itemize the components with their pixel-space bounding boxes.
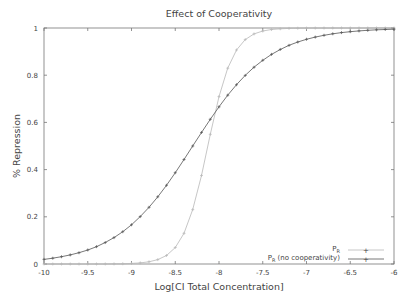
series-line (44, 28, 394, 264)
x-tick-label: -6.5 (343, 269, 357, 277)
x-axis-ticks: -10-9.5-9-8.5-8-7.5-7-6.5-6 (38, 28, 398, 277)
x-tick-label: -6 (391, 269, 399, 277)
y-axis-label: % Repression (11, 114, 22, 178)
x-tick-label: -9.5 (81, 269, 95, 277)
y-tick-label: 0.6 (27, 119, 39, 127)
y-axis-ticks: 00.20.40.60.81 (27, 25, 394, 269)
chart: Effect of Cooperativity % Repression Log… (0, 0, 406, 297)
legend-cross-pr: + (363, 247, 369, 255)
plot-series (43, 27, 396, 266)
x-tick-label: -10 (38, 269, 49, 277)
x-tick-label: -7.5 (256, 269, 270, 277)
series-line (44, 29, 394, 259)
y-tick-label: 0 (34, 261, 38, 269)
x-tick-label: -7 (303, 269, 310, 277)
legend: PR + PR (no cooperativity) + (268, 245, 384, 264)
x-tick-label: -8 (216, 269, 223, 277)
legend-label-pr-noncoop: PR (no cooperativity) (268, 254, 341, 263)
chart-title: Effect of Cooperativity (166, 8, 273, 19)
x-tick-label: -8.5 (168, 269, 182, 277)
y-tick-label: 0.4 (27, 166, 39, 174)
legend-label-pr: PR (332, 245, 340, 254)
plot-frame (44, 28, 394, 264)
x-tick-label: -9 (128, 269, 135, 277)
y-tick-label: 1 (34, 25, 38, 33)
legend-cross-pr-noncoop: + (363, 256, 369, 264)
x-axis-label: Log[CI Total Concentration] (154, 281, 283, 292)
y-tick-label: 0.8 (27, 72, 38, 80)
y-tick-label: 0.2 (27, 213, 38, 221)
